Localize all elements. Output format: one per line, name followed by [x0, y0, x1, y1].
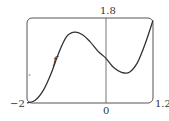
- chart-canvas: [0, 0, 169, 121]
- stray-dot: [29, 74, 31, 76]
- curve-f: [27, 20, 153, 103]
- plot-frame: [27, 18, 153, 103]
- x-zero-label: 0: [103, 106, 109, 116]
- x-min-label: −2: [10, 99, 25, 109]
- y-max-label: 1.8: [100, 6, 116, 16]
- series-label-f: f: [53, 55, 57, 66]
- x-max-label: 1.2: [155, 99, 169, 109]
